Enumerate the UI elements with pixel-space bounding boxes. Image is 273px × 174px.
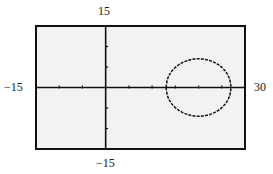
graph-screen bbox=[0, 0, 273, 174]
